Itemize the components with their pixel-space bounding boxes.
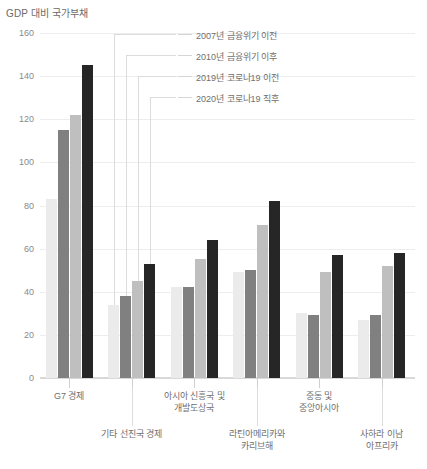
plot-area: 020406080100120140160 <box>40 33 415 378</box>
legend-label-2: 2010년 금융위기 이후 <box>196 50 277 63</box>
legend-leader-vertical-1 <box>114 34 115 305</box>
bar <box>82 65 93 378</box>
x-axis-tick <box>257 378 258 388</box>
bar <box>132 281 143 378</box>
legend-leader-vertical-2 <box>126 55 127 296</box>
y-axis-tick-label: 80 <box>24 201 34 211</box>
bar <box>382 266 393 378</box>
x-axis-label-6: 사하라 이남 아프리카 <box>336 428 427 452</box>
legend-dash-1 <box>178 34 192 35</box>
bar-group <box>171 33 218 378</box>
y-axis-tick-label: 100 <box>19 157 34 167</box>
legend-leader-vertical-3 <box>138 76 139 281</box>
legend-dash-4 <box>178 97 192 98</box>
bar-group <box>46 33 93 378</box>
bar <box>144 264 155 378</box>
x-axis-label-1: G7 경제 <box>23 390 115 402</box>
x-label-connector-6 <box>382 388 383 426</box>
bar-group <box>358 33 405 378</box>
bar-group <box>296 33 343 378</box>
x-axis-label-4: 라틴아메리카와 카리브해 <box>211 428 303 452</box>
x-label-connector-2 <box>132 388 133 426</box>
bar <box>370 315 381 378</box>
x-label-connector-4 <box>257 388 258 426</box>
bar <box>358 320 369 378</box>
bar <box>58 130 69 378</box>
x-axis-label-2: 기타 선진국 경제 <box>86 428 178 440</box>
legend-leader-horizontal-4 <box>150 97 176 98</box>
legend-label-4: 2020년 코로나19 직후 <box>196 92 279 105</box>
bar <box>183 287 194 378</box>
legend-leader-vertical-4 <box>150 97 151 264</box>
bar <box>245 270 256 378</box>
bar-group <box>108 33 155 378</box>
y-axis-tick-label: 140 <box>19 71 34 81</box>
x-axis-tick <box>194 378 195 388</box>
bar <box>332 255 343 378</box>
legend-leader-horizontal-3 <box>138 76 176 77</box>
bar-group <box>233 33 280 378</box>
legend-label-3: 2019년 코로나19 이전 <box>196 71 279 84</box>
bar <box>296 313 307 378</box>
bar <box>320 272 331 378</box>
gridline <box>40 378 415 379</box>
y-axis-tick-label: 40 <box>24 287 34 297</box>
legend-leader-horizontal-2 <box>126 55 176 56</box>
y-axis-tick-label: 120 <box>19 114 34 124</box>
y-axis-tick-label: 0 <box>29 373 34 383</box>
bar <box>171 287 182 378</box>
bar <box>233 272 244 378</box>
bar <box>108 305 119 378</box>
bar <box>308 315 319 378</box>
x-axis-tick <box>382 378 383 388</box>
x-axis-tick <box>69 378 70 388</box>
y-axis-tick-label: 20 <box>24 330 34 340</box>
x-axis-label-5: 중동 및 중앙아시아 <box>273 390 365 414</box>
bar <box>120 296 131 378</box>
bar <box>195 259 206 378</box>
bar-chart: GDP 대비 국가부채 020406080100120140160 2007년 … <box>0 0 427 469</box>
bar <box>70 115 81 378</box>
chart-title: GDP 대비 국가부채 <box>6 5 88 20</box>
bar <box>394 253 405 378</box>
legend-label-1: 2007년 금융위기 이전 <box>196 29 277 42</box>
y-axis-tick-label: 160 <box>19 28 34 38</box>
x-axis-label-3: 아시아 신흥국 및 개발도상국 <box>148 390 240 414</box>
bar <box>46 199 57 378</box>
bar <box>269 201 280 378</box>
bar <box>207 240 218 378</box>
legend-dash-3 <box>178 76 192 77</box>
y-axis-tick-label: 60 <box>24 244 34 254</box>
legend-dash-2 <box>178 55 192 56</box>
bar <box>257 225 268 378</box>
legend-leader-horizontal-1 <box>114 34 176 35</box>
x-axis-tick <box>319 378 320 388</box>
x-axis-tick <box>132 378 133 388</box>
